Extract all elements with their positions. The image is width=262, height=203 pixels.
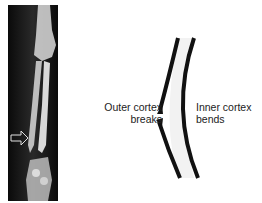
outer-cortex-line2: breaks xyxy=(82,113,162,125)
outer-cortex-line1: Outer cortex xyxy=(82,101,162,113)
arrow-icon xyxy=(8,5,58,201)
outer-cortex-label: Outer cortex breaks xyxy=(82,101,162,125)
inner-cortex-line2: bends xyxy=(196,113,262,125)
inner-cortex-label: Inner cortex bends xyxy=(196,101,262,125)
inner-cortex-line1: Inner cortex xyxy=(196,101,262,113)
xray-image xyxy=(8,5,58,201)
